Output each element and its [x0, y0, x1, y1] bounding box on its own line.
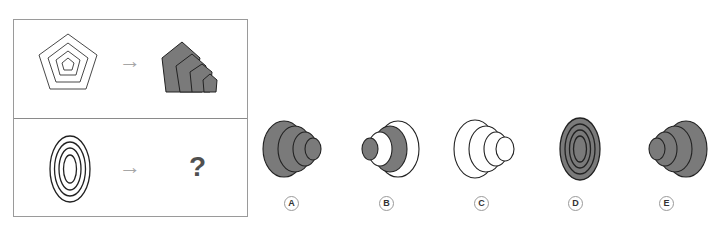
- stacked-pentagons-icon: [162, 40, 226, 98]
- option-c-figure[interactable]: [453, 118, 517, 180]
- puzzle-box: → → ?: [13, 19, 248, 217]
- option-d-label[interactable]: D: [568, 196, 583, 211]
- option-c-label[interactable]: C: [474, 196, 489, 211]
- option-b-figure[interactable]: [358, 119, 420, 179]
- option-a-label[interactable]: A: [284, 196, 299, 211]
- concentric-ellipses-icon: [48, 134, 92, 204]
- option-e-label[interactable]: E: [659, 196, 674, 211]
- option-a-figure[interactable]: [262, 119, 324, 179]
- row-divider: [14, 118, 247, 119]
- concentric-pentagons-icon: [36, 32, 100, 94]
- option-d-figure[interactable]: [558, 117, 602, 181]
- arrow-icon: →: [119, 156, 141, 178]
- option-b-label[interactable]: B: [379, 196, 394, 211]
- arrow-icon: →: [119, 50, 141, 72]
- option-e-figure[interactable]: [646, 119, 708, 179]
- question-mark: ?: [189, 153, 206, 181]
